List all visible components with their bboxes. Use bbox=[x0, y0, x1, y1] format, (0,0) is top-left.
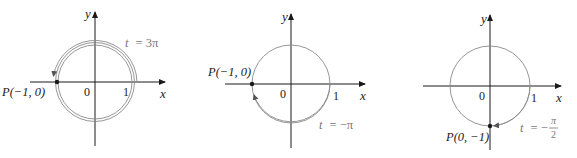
tick-one-label: 1 bbox=[333, 89, 339, 103]
fraction-numerator: π bbox=[551, 115, 557, 126]
point-p bbox=[55, 80, 59, 84]
y-axis-label: y bbox=[83, 6, 91, 21]
x-axis-label: x bbox=[159, 86, 166, 101]
traversal-path bbox=[254, 84, 330, 122]
tick-one-label: 1 bbox=[531, 91, 537, 105]
svg-text:t = −: t = − bbox=[520, 120, 548, 135]
point-label: P(0, −1) bbox=[445, 130, 489, 144]
y-axis-label: y bbox=[479, 11, 487, 26]
param-label: t = 3π bbox=[125, 35, 159, 50]
x-axis-label: x bbox=[555, 90, 562, 105]
point-p bbox=[250, 82, 254, 86]
point-label: P(−1, 0) bbox=[1, 85, 45, 99]
panel-2: y x 0 1 P(−1, 0) t = −π bbox=[207, 9, 366, 148]
param-label: t = − π 2 bbox=[520, 115, 558, 140]
tick-one-label: 1 bbox=[123, 85, 129, 99]
y-axis-label: y bbox=[280, 9, 288, 24]
point-p bbox=[488, 124, 492, 128]
param-label: t = −π bbox=[319, 117, 354, 132]
origin-label: 0 bbox=[280, 87, 286, 101]
point-label: P(−1, 0) bbox=[207, 65, 251, 79]
panel-1: y x 0 1 P(−1, 0) t = 3π bbox=[1, 6, 166, 146]
x-axis-label: x bbox=[359, 88, 366, 103]
origin-label: 0 bbox=[479, 89, 485, 103]
fraction-denominator: 2 bbox=[551, 129, 556, 140]
panel-3: y x 0 1 P(0, −1) t = − π 2 bbox=[423, 11, 562, 150]
unit-circle-diagrams: y x 0 1 P(−1, 0) t = 3π y x 0 1 P(−1, 0)… bbox=[0, 0, 577, 158]
origin-label: 0 bbox=[84, 85, 90, 99]
